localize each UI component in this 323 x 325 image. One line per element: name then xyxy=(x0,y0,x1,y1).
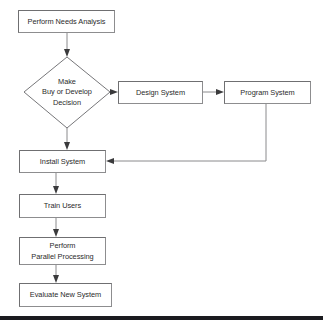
footer-rule xyxy=(0,316,323,320)
connector-program-to-install xyxy=(106,104,266,164)
node-label-parallel-line1: Perform xyxy=(50,241,76,250)
node-label-train-users: Train Users xyxy=(44,201,82,210)
node-program-system[interactable]: Program System xyxy=(225,82,311,104)
node-label-program-system: Program System xyxy=(240,88,294,97)
node-perform-parallel-processing[interactable]: Perform Parallel Processing xyxy=(20,238,106,265)
node-label-design-system: Design System xyxy=(136,88,185,97)
node-label-decision-line1: Make xyxy=(58,77,76,86)
node-label-install-system: Install System xyxy=(40,157,85,166)
node-evaluate-new-system[interactable]: Evaluate New System xyxy=(20,284,112,307)
connector-needs-to-decision xyxy=(64,33,70,57)
node-design-system[interactable]: Design System xyxy=(119,82,203,104)
node-make-buy-or-develop-decision[interactable]: Make Buy or Develop Decision xyxy=(24,57,110,128)
node-label-evaluate-new-system: Evaluate New System xyxy=(30,290,101,299)
node-label-decision-line3: Decision xyxy=(53,98,81,107)
connector-train-to-parallel xyxy=(53,218,59,237)
connector-design-to-program xyxy=(203,89,224,95)
connector-install-to-train xyxy=(53,173,59,194)
flowchart-canvas: Perform Needs Analysis Make Buy or Devel… xyxy=(0,0,323,325)
node-train-users[interactable]: Train Users xyxy=(20,195,106,218)
connector-parallel-to-evaluate xyxy=(53,265,59,283)
node-label-decision-line2: Buy or Develop xyxy=(42,87,92,96)
node-label-perform-needs-analysis: Perform Needs Analysis xyxy=(28,17,106,26)
connector-decision-to-design xyxy=(110,89,118,95)
flowchart-page: Perform Needs Analysis Make Buy or Devel… xyxy=(0,0,323,325)
node-install-system[interactable]: Install System xyxy=(20,151,106,173)
connector-decision-to-install xyxy=(64,128,70,150)
node-label-parallel-line2: Parallel Processing xyxy=(31,252,93,261)
node-perform-needs-analysis[interactable]: Perform Needs Analysis xyxy=(19,11,115,33)
